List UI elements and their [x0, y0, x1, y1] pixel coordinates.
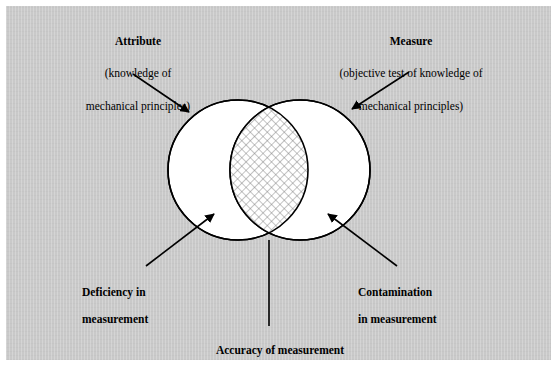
accuracy-label-line1: Accuracy of measurement	[175, 344, 385, 358]
measure-label: Measure (objective test of knowledge of …	[300, 16, 522, 132]
deficiency-label-line1: Deficiency in	[82, 286, 222, 300]
accuracy-label: Accuracy of measurement	[175, 330, 385, 366]
contamination-label-line1: Contamination	[358, 286, 523, 300]
deficiency-pointer	[146, 214, 214, 266]
attribute-label-sub2: mechanical principles)	[52, 100, 224, 114]
attribute-label-sub1: (knowledge of	[52, 67, 224, 81]
contamination-pointer	[328, 214, 397, 266]
contamination-label-line2: in measurement	[358, 313, 523, 327]
attribute-label: Attribute (knowledge of mechanical princ…	[52, 16, 224, 132]
attribute-label-title: Attribute	[52, 35, 224, 49]
measure-label-sub1: (objective test of knowledge of	[300, 67, 522, 81]
figure-container: Attribute (knowledge of mechanical princ…	[0, 0, 555, 366]
measure-label-sub2: mechanical principles)	[300, 100, 522, 114]
measure-label-title: Measure	[300, 35, 522, 49]
deficiency-label-line2: measurement	[82, 313, 222, 327]
